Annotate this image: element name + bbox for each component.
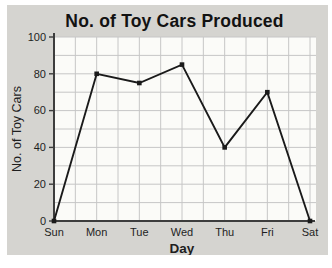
- y-tick-label: 100: [28, 31, 46, 43]
- chart-image: No. of Toy Cars Produced 020406080100Sun…: [0, 0, 332, 268]
- x-tick-label: Fri: [261, 226, 274, 238]
- y-tick-label: 40: [34, 141, 46, 153]
- y-tick-label: 0: [40, 215, 46, 227]
- y-tick-label: 60: [34, 104, 46, 116]
- chart-panel: No. of Toy Cars Produced 020406080100Sun…: [7, 5, 328, 255]
- data-point: [52, 219, 57, 224]
- x-tick-label: Tue: [130, 226, 149, 238]
- y-tick-label: 20: [34, 178, 46, 190]
- y-tick-label: 80: [34, 68, 46, 80]
- data-point: [222, 145, 227, 150]
- y-axis-title: No. of Toy Cars: [10, 86, 24, 172]
- x-tick-label: Sun: [44, 226, 64, 238]
- data-point: [137, 81, 142, 86]
- x-tick-label: Sat: [302, 226, 319, 238]
- x-tick-label: Thu: [215, 226, 234, 238]
- data-point: [308, 219, 313, 224]
- x-tick-label: Mon: [86, 226, 107, 238]
- data-point: [94, 72, 99, 77]
- x-tick-label: Wed: [171, 226, 193, 238]
- line-chart: 020406080100SunMonTueWedThuFriSatDayNo. …: [7, 5, 328, 255]
- data-point: [180, 62, 185, 67]
- x-axis-title: Day: [170, 241, 195, 255]
- data-point: [265, 90, 270, 95]
